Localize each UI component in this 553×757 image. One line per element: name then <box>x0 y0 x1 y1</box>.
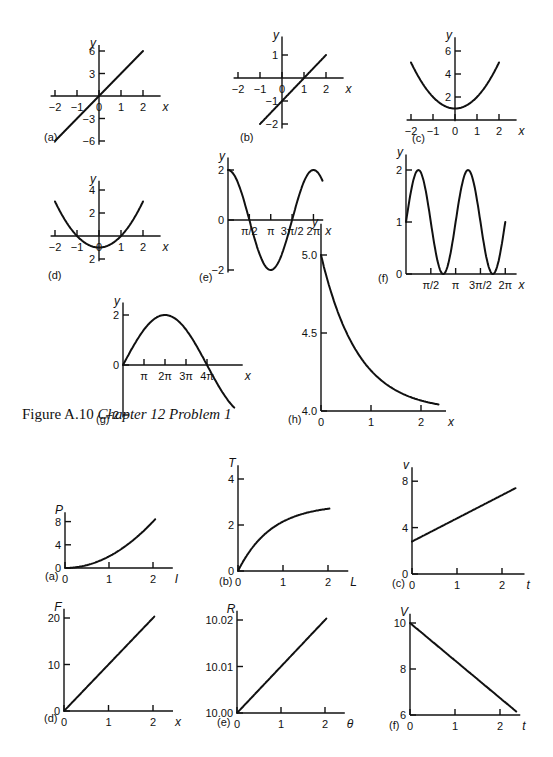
x-tick-label: 2 <box>323 83 329 95</box>
data-curve <box>237 619 326 713</box>
y-tick-label: 2 <box>396 164 402 176</box>
x-axis-label: x <box>162 240 170 254</box>
y-tick-label: 2 <box>89 207 95 219</box>
y-tick-label: 4 <box>228 473 234 485</box>
x-tick-label: 1 <box>474 125 480 137</box>
y-axis-label: R <box>227 602 236 616</box>
caption-title: Chapter 12 Problem 1 <box>97 406 231 422</box>
x-tick-label: 0 <box>318 416 324 428</box>
y-axis-label: V <box>400 605 409 619</box>
x-axis-label: I <box>175 572 179 586</box>
panel-label: (a) <box>45 570 58 582</box>
figure-canvas: −2−1012x63−3−6y(a)−2−1012x1−1−2y(b)−2−10… <box>0 0 553 757</box>
y-tick-label: 10.01 <box>205 661 233 673</box>
x-tick-label: π/2 <box>422 279 439 291</box>
y-tick-label: 0 <box>218 214 224 226</box>
x-tick-label: 1 <box>106 573 112 585</box>
plot-top-f: π/2π3π/22πx210y(f) <box>378 145 526 292</box>
plot-bot-c: 012t048v(c) <box>392 458 531 592</box>
x-tick-label: 0 <box>234 718 240 730</box>
panel-label: (b) <box>219 575 232 587</box>
plot-top-b: −2−1012x1−1−2y(b) <box>232 28 353 143</box>
panel-label: (f) <box>389 719 399 731</box>
x-tick-label: π/2 <box>241 225 258 237</box>
x-tick-label: 2 <box>150 716 156 728</box>
y-tick-label: −6 <box>82 135 95 147</box>
x-tick-label: 2 <box>325 576 331 588</box>
x-tick-label: 1 <box>454 579 460 591</box>
x-tick-label: 0 <box>96 101 102 113</box>
x-axis-label: x <box>518 278 526 292</box>
plot-top-d: −2−1012x422y(d) <box>48 172 170 281</box>
x-axis-label: x <box>324 224 332 238</box>
y-axis-label: y <box>311 215 319 229</box>
x-tick-label: 1 <box>452 720 458 732</box>
x-axis-label: x <box>345 82 353 96</box>
plot-bot-d: 012x01020F(d) <box>44 600 182 729</box>
plot-bot-b: 012L024T(b) <box>219 456 357 589</box>
panel-label: (c) <box>412 132 425 144</box>
x-tick-label: −1 <box>427 125 440 137</box>
x-axis-label: x <box>174 715 182 729</box>
data-curve <box>260 55 326 124</box>
x-tick-label: 0 <box>407 720 413 732</box>
y-tick-label: 8 <box>55 516 61 528</box>
y-tick-label: 20 <box>48 612 60 624</box>
x-tick-label: 0 <box>62 573 68 585</box>
data-curve <box>406 170 505 274</box>
x-tick-label: 2 <box>150 573 156 585</box>
x-tick-label: π <box>267 225 275 237</box>
x-tick-label: −1 <box>254 83 267 95</box>
y-tick-label: 2 <box>89 253 95 265</box>
panel-label: (f) <box>378 272 388 284</box>
x-tick-label: 0 <box>279 83 285 95</box>
y-tick-label: 2 <box>445 91 451 103</box>
plot-bot-a: 012I048P(a) <box>45 503 179 586</box>
data-curve <box>123 315 234 408</box>
caption-prefix: Figure A.10 <box>22 406 97 422</box>
y-tick-label: 4 <box>402 522 408 534</box>
y-axis-label: y <box>89 172 97 186</box>
x-tick-label: −2 <box>232 83 245 95</box>
y-tick-label: 6 <box>445 45 451 57</box>
y-axis-label: F <box>54 600 62 614</box>
y-tick-label: 4.0 <box>302 405 317 417</box>
plot-bot-e: 012θ10.0010.0110.02R(e) <box>205 602 353 731</box>
x-tick-label: 0 <box>452 125 458 137</box>
panel-label: (b) <box>240 131 253 143</box>
x-tick-label: 2 <box>496 125 502 137</box>
x-tick-label: 2 <box>499 579 505 591</box>
y-tick-label: 4 <box>55 539 61 551</box>
y-axis-label: y <box>89 36 97 50</box>
y-tick-label: 6 <box>400 709 406 721</box>
x-tick-label: −1 <box>71 241 84 253</box>
y-tick-label: 3 <box>89 68 95 80</box>
x-tick-label: 2π <box>158 370 172 382</box>
x-tick-label: 3π/2 <box>469 279 492 291</box>
x-tick-label: 2 <box>322 718 328 730</box>
y-axis-label: y <box>272 28 280 42</box>
x-tick-label: 1 <box>118 241 124 253</box>
data-curve <box>64 617 154 711</box>
x-tick-label: 1 <box>280 576 286 588</box>
x-tick-label: 0 <box>61 716 67 728</box>
y-tick-label: 8 <box>402 475 408 487</box>
x-axis-label: x <box>162 100 170 114</box>
x-axis-label: x <box>244 369 252 383</box>
data-curve <box>65 519 155 568</box>
y-tick-label: 10.02 <box>205 614 233 626</box>
panel-label: (a) <box>44 131 57 143</box>
data-curve <box>410 623 516 712</box>
x-tick-label: −1 <box>71 101 84 113</box>
plot-top-h: 012x5.04.54.0y(h) <box>288 215 455 429</box>
x-tick-label: 3π/2 <box>281 225 304 237</box>
y-tick-label: 0 <box>113 359 119 371</box>
x-tick-label: 3π <box>179 370 193 382</box>
x-tick-label: 2 <box>140 101 146 113</box>
y-tick-label: 10 <box>48 659 60 671</box>
data-curve <box>412 488 516 541</box>
data-curve <box>238 509 329 571</box>
x-axis-label: x <box>447 415 455 429</box>
panel-label: (e) <box>217 716 230 728</box>
x-tick-label: −2 <box>49 101 62 113</box>
